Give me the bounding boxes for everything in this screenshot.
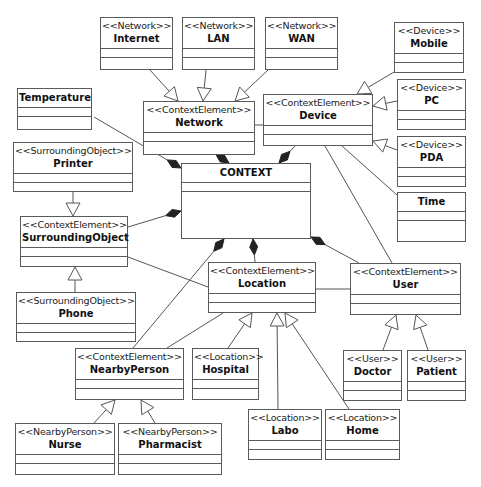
generalization-nurse-to-nearbyperson [94, 400, 115, 423]
generalization-pc-to-device [373, 96, 397, 110]
attributes-compartment [183, 49, 254, 58]
stereotype-label: <<ContextElement>> [265, 97, 371, 109]
class-box-nurse[interactable]: <<NearbyPerson>>Nurse [15, 423, 115, 475]
class-name: Temperature [19, 91, 90, 104]
generalization-arrowhead-icon [141, 400, 154, 415]
class-box-pda[interactable]: <<Device>>PDA [397, 136, 466, 187]
generalization-arrowhead-icon [414, 315, 427, 330]
class-header: <<SurroundingObject>>Phone [17, 293, 135, 324]
class-header: <<Location>>Hospital [193, 349, 258, 380]
generalization-arrowhead-icon [357, 81, 372, 94]
generalization-hospital-to-location [228, 313, 252, 348]
stereotype-label: <<Network>> [184, 20, 253, 32]
class-header: <<ContextElement>>User [351, 264, 460, 295]
generalization-labo-to-location [270, 313, 284, 409]
attributes-compartment [395, 54, 463, 63]
class-box-wan[interactable]: <<Network>>WAN [265, 17, 338, 70]
class-box-pharmacist[interactable]: <<NearbyPerson>>Pharmacist [118, 423, 222, 475]
class-box-labo[interactable]: <<Location>>Labo [248, 409, 322, 460]
attributes-compartment [17, 324, 135, 333]
class-box-lan[interactable]: <<Network>>LAN [182, 17, 255, 70]
class-header: <<ContextElement>>SurroundingObject [21, 217, 127, 248]
class-name: Doctor [345, 365, 400, 378]
class-box-nearbyperson[interactable]: <<ContextElement>>NearbyPerson [75, 348, 184, 400]
class-header: <<Device>>Mobile [395, 23, 463, 54]
attributes-compartment [76, 380, 183, 389]
attributes-compartment [18, 108, 91, 117]
class-box-network[interactable]: <<ContextElement>>Network [143, 101, 255, 155]
stereotype-label: <<ContextElement>> [22, 219, 126, 231]
stereotype-label: <<ContextElement>> [352, 266, 459, 278]
composition-surroundingobject-to-context [128, 209, 181, 227]
attributes-compartment [408, 382, 465, 391]
operations-compartment [14, 183, 132, 191]
attributes-compartment [398, 168, 465, 177]
class-header: <<User>>Patient [408, 351, 465, 382]
generalization-doctor-to-user [383, 315, 398, 350]
operations-compartment [101, 58, 172, 69]
class-box-user[interactable]: <<ContextElement>>User [350, 263, 461, 315]
stereotype-label: <<ContextElement>> [210, 265, 314, 277]
generalization-arrowhead-icon [68, 267, 82, 280]
class-header: <<Network>>Internet [101, 18, 172, 49]
class-box-pc[interactable]: <<Device>>PC [397, 79, 466, 130]
composition-diamond-icon [216, 154, 229, 163]
class-box-temperature[interactable]: Temperature [17, 88, 92, 130]
class-box-device[interactable]: <<ContextElement>>Device [263, 94, 373, 146]
operations-compartment [395, 63, 463, 72]
operations-compartment [144, 142, 254, 154]
class-name: Network [145, 116, 253, 129]
attributes-compartment [266, 49, 337, 58]
class-name: User [352, 278, 459, 291]
class-box-surroundingobject[interactable]: <<ContextElement>>SurroundingObject [20, 216, 128, 267]
class-box-printer[interactable]: <<SurroundingObject>>Printer [13, 142, 133, 192]
class-name: Labo [250, 424, 320, 437]
operations-compartment [76, 389, 183, 399]
composition-diamond-icon [279, 151, 290, 163]
class-box-phone[interactable]: <<SurroundingObject>>Phone [16, 292, 136, 342]
stereotype-label: <<SurroundingObject>> [15, 145, 131, 157]
class-header: <<ContextElement>>Network [144, 102, 254, 133]
stereotype-label: <<ContextElement>> [77, 351, 182, 363]
composition-diamond-icon [250, 239, 258, 255]
class-box-hospital[interactable]: <<Location>>Hospital [192, 348, 259, 400]
class-name: Phone [18, 307, 134, 320]
attributes-compartment [16, 455, 114, 464]
class-box-doctor[interactable]: <<User>>Doctor [343, 350, 402, 401]
class-name: Location [210, 277, 314, 290]
operations-compartment [351, 304, 460, 314]
stereotype-label: <<User>> [345, 353, 400, 365]
class-name: Device [265, 109, 371, 122]
stereotype-label: <<NearbyPerson>> [17, 426, 113, 438]
operations-compartment [264, 135, 372, 145]
class-box-location[interactable]: <<ContextElement>>Location [208, 262, 316, 313]
class-box-home[interactable]: <<Location>>Home [325, 409, 400, 460]
stereotype-label: <<Location>> [327, 412, 398, 424]
class-name: Internet [102, 32, 171, 45]
class-name: LAN [184, 32, 253, 45]
attributes-compartment [326, 441, 399, 450]
class-name: Nurse [17, 438, 113, 451]
class-box-time[interactable]: Time [397, 192, 466, 242]
operations-compartment [326, 450, 399, 459]
stereotype-label: <<NearbyPerson>> [120, 426, 220, 438]
generalization-pda-to-device [373, 139, 397, 152]
class-header: <<ContextElement>>Device [264, 95, 372, 126]
generalization-arrowhead-icon [101, 400, 115, 414]
stereotype-label: <<Location>> [194, 351, 257, 363]
attributes-compartment [14, 174, 132, 183]
generalization-arrowhead-icon [66, 203, 80, 216]
class-box-internet[interactable]: <<Network>>Internet [100, 17, 173, 70]
operations-compartment [16, 464, 114, 474]
composition-diamond-icon [166, 209, 181, 217]
stereotype-label: <<Network>> [267, 20, 336, 32]
composition-diamond-icon [311, 237, 325, 245]
class-box-context[interactable]: CONTEXT [181, 163, 311, 239]
generalization-internet-to-network [150, 70, 178, 101]
operations-compartment [119, 464, 221, 474]
class-box-mobile[interactable]: <<Device>>Mobile [394, 22, 464, 73]
generalization-arrowhead-icon [239, 313, 252, 328]
class-header: <<NearbyPerson>>Nurse [16, 424, 114, 455]
generalization-arrowhead-icon [164, 87, 178, 101]
class-box-patient[interactable]: <<User>>Patient [407, 350, 466, 401]
